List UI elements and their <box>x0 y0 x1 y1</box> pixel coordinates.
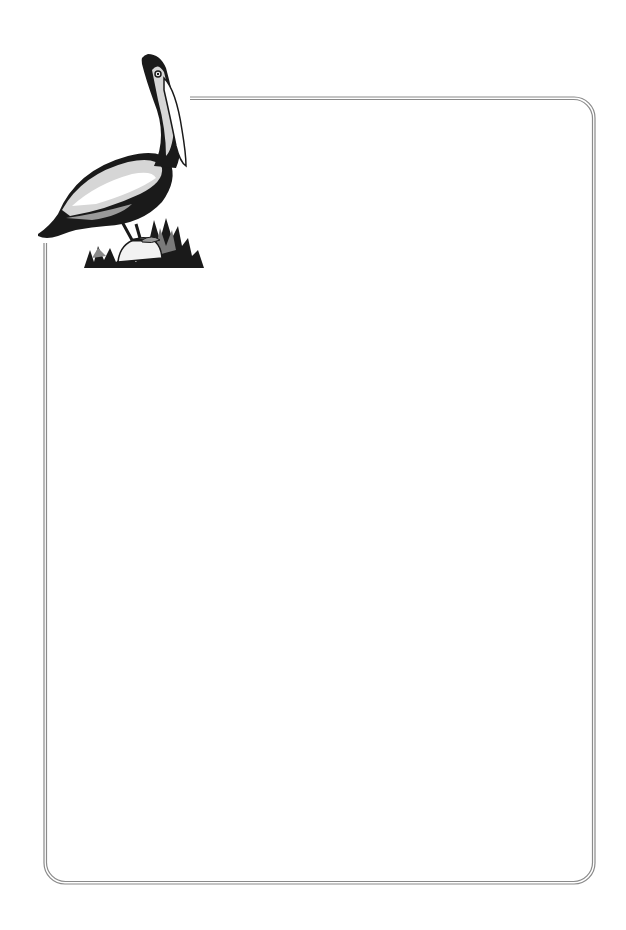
pelican-icon <box>36 50 212 272</box>
pelican-illustration <box>36 50 212 272</box>
